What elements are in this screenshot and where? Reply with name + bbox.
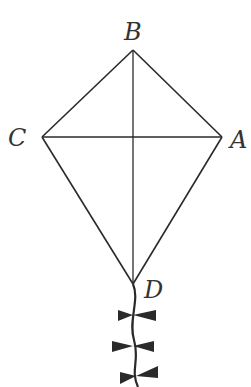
segment-ad	[133, 137, 222, 284]
label-d: D	[143, 276, 163, 304]
tail-string	[132, 284, 138, 387]
tail-bow-2	[112, 341, 154, 352]
label-c: C	[8, 124, 26, 152]
segment-bc	[42, 50, 133, 137]
kite-diagram: B C A D	[0, 0, 251, 387]
tail-bow-3	[120, 366, 158, 384]
segment-cd	[42, 137, 133, 284]
label-a: A	[228, 126, 247, 154]
label-b: B	[123, 18, 142, 46]
segment-ba	[133, 50, 222, 137]
tail-bow-1	[118, 310, 156, 321]
kite-outline	[42, 50, 222, 284]
